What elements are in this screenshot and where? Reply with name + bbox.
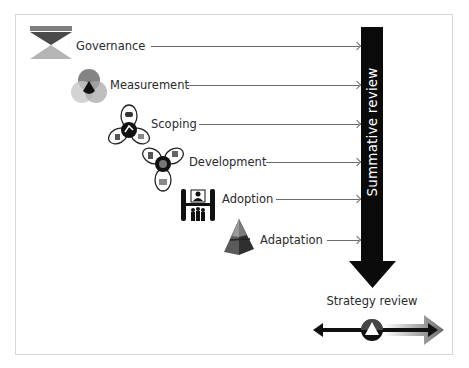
summative-review-label: Summative review — [364, 67, 380, 196]
connector-development — [266, 162, 359, 163]
pyramid-icon — [220, 218, 256, 256]
venn-circles-icon — [70, 67, 108, 105]
stage-label-adoption: Adoption — [222, 192, 273, 206]
stage-label-scoping: Scoping — [151, 117, 197, 131]
adoption-people-icon — [180, 187, 216, 223]
stage-label-adaptation: Adaptation — [260, 233, 323, 247]
connector-scoping — [199, 124, 359, 125]
strategy-review-arrow — [312, 312, 446, 348]
connector-adoption — [276, 199, 359, 200]
stage-label-measurement: Measurement — [110, 78, 189, 92]
strategy-review-label: Strategy review — [327, 294, 418, 308]
scoping-cycle-icon — [108, 104, 150, 148]
hourglass-icon — [29, 26, 73, 60]
stage-label-governance: Governance — [76, 39, 145, 53]
connector-governance — [151, 46, 359, 47]
stage-label-development: Development — [189, 155, 266, 169]
development-cycle-icon — [141, 146, 185, 192]
connector-measurement — [187, 85, 359, 86]
